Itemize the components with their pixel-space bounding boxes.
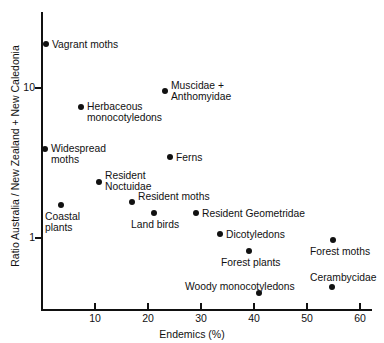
data-point-label: Muscidae + Anthomyidae	[171, 80, 231, 102]
x-tick-mark	[200, 303, 201, 310]
data-point	[129, 199, 135, 205]
scatter-plot-figure: 110 102030405060 Vagrant mothsMuscidae +…	[0, 0, 384, 343]
data-point	[329, 284, 335, 290]
data-point-label: Forest moths	[310, 246, 370, 257]
data-point-label: Coastal plants	[45, 211, 80, 233]
x-tick-label: 60	[345, 313, 375, 324]
x-tick-mark	[94, 303, 95, 310]
x-tick-mark	[306, 303, 307, 310]
x-axis-title: Endemics (%)	[0, 328, 384, 340]
x-tick-label: 20	[133, 313, 163, 324]
data-point-label: Widespread moths	[51, 143, 106, 165]
x-tick-label: 50	[292, 313, 322, 324]
data-point	[96, 179, 102, 185]
data-point-label: Forest plants	[221, 257, 281, 268]
data-point-label: Ferns	[176, 152, 202, 163]
y-axis-line	[41, 12, 43, 311]
data-point-label: Herbaceous monocotyledons	[87, 101, 162, 123]
data-point-label: Cerambycidae	[310, 272, 376, 283]
x-tick-label: 10	[80, 313, 110, 324]
data-point	[167, 154, 173, 160]
data-point-label: Dicotyledons	[226, 229, 285, 240]
x-tick-label: 40	[239, 313, 269, 324]
data-point-label: Resident moths	[138, 191, 210, 202]
data-point	[330, 237, 336, 243]
data-point	[42, 146, 48, 152]
data-point-label: Resident Geometridae	[202, 208, 305, 219]
data-point	[78, 104, 84, 110]
y-tick-mark	[35, 87, 42, 88]
x-tick-label: 30	[186, 313, 216, 324]
data-point	[58, 202, 64, 208]
x-tick-mark	[253, 303, 254, 310]
y-tick-mark	[35, 237, 42, 238]
x-axis-line	[41, 309, 372, 311]
data-point	[151, 210, 157, 216]
data-point	[162, 88, 168, 94]
x-tick-mark	[359, 303, 360, 310]
data-point	[246, 248, 252, 254]
x-tick-mark	[147, 303, 148, 310]
data-point-label: Woody monocotyledons	[185, 281, 295, 292]
data-point-label: Resident Noctuidae	[105, 170, 151, 192]
data-point	[193, 210, 199, 216]
data-point-label: Land birds	[131, 219, 179, 230]
y-axis-title: Ratio Australia / New Zealand + New Cale…	[9, 6, 21, 306]
data-point	[43, 41, 49, 47]
data-point-label: Vagrant moths	[52, 39, 118, 50]
data-point	[217, 231, 223, 237]
